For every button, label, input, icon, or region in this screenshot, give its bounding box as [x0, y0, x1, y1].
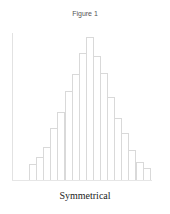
histogram-bar [143, 168, 151, 180]
histogram-bars [0, 0, 170, 214]
chart-caption: Symmetrical [0, 190, 170, 201]
